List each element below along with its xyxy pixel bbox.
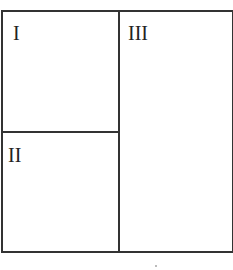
- region-label-iii: III: [128, 23, 148, 43]
- speck-mark: [155, 265, 157, 267]
- region-label-ii: II: [8, 145, 21, 165]
- horizontal-divider: [3, 131, 118, 133]
- outer-square: I II III: [1, 10, 233, 253]
- region-label-i: I: [13, 23, 20, 43]
- vertical-divider: [118, 12, 120, 251]
